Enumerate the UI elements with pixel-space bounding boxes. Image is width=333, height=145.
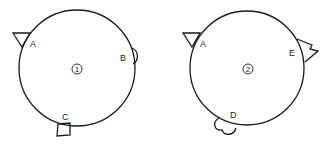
circle-attachments-diagram: 1 A B C 2 A E D [0, 0, 333, 145]
label-a-2: A [200, 39, 206, 49]
label-e: E [289, 48, 295, 58]
figure-2: 2 A E D [183, 11, 318, 134]
label-c: C [62, 112, 69, 122]
zigzag-attachment-e [297, 39, 318, 62]
label-b: B [120, 53, 126, 63]
figure-number-2: 2 [246, 65, 251, 74]
figure-1: 1 A B C [13, 10, 137, 136]
triangle-attachment-a [13, 33, 30, 47]
label-d: D [230, 110, 237, 120]
label-a-1: A [30, 39, 36, 49]
figure-number-1: 1 [75, 65, 80, 74]
